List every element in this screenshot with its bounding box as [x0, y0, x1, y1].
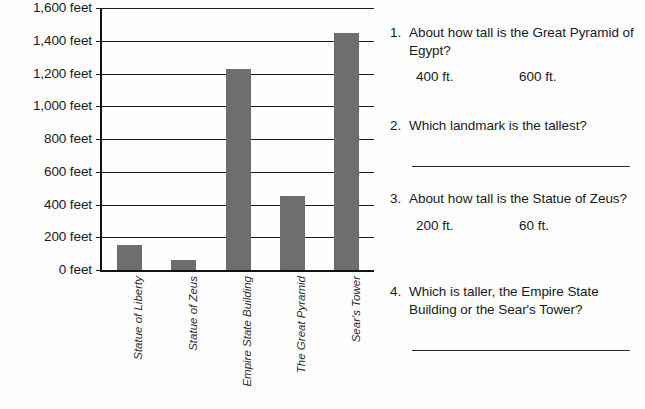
question-number: 3. [390, 190, 409, 208]
x-tick-label-text: Statue of Zeus [187, 276, 199, 351]
choice-option[interactable]: 200 ft. [416, 217, 519, 234]
x-tick-label: Empire State Building [241, 276, 253, 387]
question-choices: 200 ft. 60 ft. [416, 217, 642, 234]
x-tick-label-text: The Great Pyramid [295, 276, 307, 373]
bar [334, 33, 359, 270]
y-tick-label: 600 feet [0, 165, 92, 179]
x-tick-label: Statue of Liberty [132, 276, 144, 360]
x-tick-label-text: Statue of Liberty [132, 276, 144, 360]
question-item: 3. About how tall is the Statue of Zeus?… [390, 190, 642, 234]
question-item: 2. Which landmark is the tallest? [390, 117, 642, 135]
questions-panel: 1. About how tall is the Great Pyramid o… [390, 0, 645, 409]
plot-area [100, 8, 374, 272]
bar [171, 260, 196, 270]
choice-option[interactable]: 600 ft. [519, 68, 557, 85]
choice-option[interactable]: 400 ft. [416, 68, 519, 85]
question-text: About how tall is the Great Pyramid of E… [409, 24, 642, 59]
question-number: 2. [390, 117, 409, 135]
question-choices: 400 ft. 600 ft. [416, 68, 642, 85]
x-tick-label: Sear's Tower [350, 276, 362, 342]
y-tick-label: 0 feet [0, 263, 92, 277]
x-tick-label-text: Sear's Tower [350, 276, 362, 342]
question-text: About how tall is the Statue of Zeus? [409, 190, 642, 208]
y-tick-label: 800 feet [0, 132, 92, 146]
question-text: Which landmark is the tallest? [409, 117, 642, 135]
y-axis: 1,600 feet 1,400 feet 1,200 feet 1,000 f… [0, 0, 92, 271]
bars-layer [102, 8, 374, 270]
y-tick-label: 1,600 feet [0, 1, 92, 15]
y-tick-label: 1,000 feet [0, 100, 92, 114]
bar [117, 245, 142, 270]
y-tick-label: 400 feet [0, 198, 92, 212]
answer-line[interactable] [412, 166, 630, 167]
bar [226, 69, 251, 270]
x-tick-label: The Great Pyramid [295, 276, 307, 373]
y-tick-mark [96, 270, 102, 271]
bar-chart: 1,600 feet 1,400 feet 1,200 feet 1,000 f… [0, 0, 375, 409]
x-tick-label: Statue of Zeus [187, 276, 199, 351]
y-tick-label: 200 feet [0, 231, 92, 245]
x-axis: Statue of LibertyStatue of ZeusEmpire St… [100, 276, 372, 409]
question-number: 4. [390, 283, 409, 301]
choice-option[interactable]: 60 ft. [519, 217, 549, 234]
question-item: 4. Which is taller, the Empire State Bui… [390, 283, 642, 318]
question-item: 1. About how tall is the Great Pyramid o… [390, 24, 642, 85]
bar [280, 196, 305, 270]
question-text: Which is taller, the Empire State Buildi… [409, 283, 642, 318]
y-tick-label: 1,200 feet [0, 67, 92, 81]
x-tick-label-text: Empire State Building [241, 276, 253, 387]
answer-line[interactable] [412, 350, 630, 351]
question-number: 1. [390, 24, 409, 42]
y-tick-label: 1,400 feet [0, 34, 92, 48]
worksheet-page: 1,600 feet 1,400 feet 1,200 feet 1,000 f… [0, 0, 645, 409]
